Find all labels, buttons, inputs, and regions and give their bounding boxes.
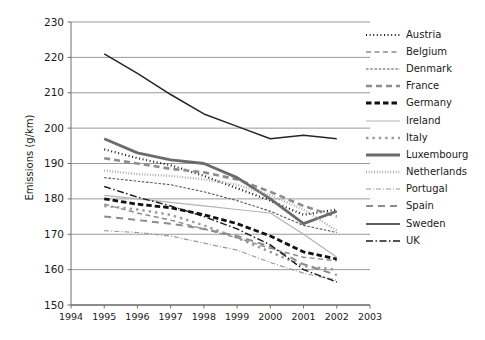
legend-item-italy[interactable]: Italy bbox=[366, 129, 484, 146]
chart-legend: AustriaBelgiumDenmarkFranceGermanyIrelan… bbox=[366, 26, 484, 249]
svg-text:1996: 1996 bbox=[125, 311, 149, 322]
legend-label: Belgium bbox=[406, 46, 447, 58]
legend-label: Italy bbox=[406, 132, 428, 144]
legend-label: Austria bbox=[406, 29, 441, 41]
legend-swatch-austria bbox=[366, 29, 400, 41]
svg-text:2000: 2000 bbox=[258, 311, 282, 322]
legend-swatch-sweden bbox=[366, 218, 400, 230]
svg-text:1998: 1998 bbox=[192, 311, 216, 322]
legend-item-portugal[interactable]: Portugal bbox=[366, 181, 484, 198]
svg-text:160: 160 bbox=[44, 263, 64, 275]
legend-label: UK bbox=[406, 235, 420, 247]
legend-item-sweden[interactable]: Sweden bbox=[366, 215, 484, 232]
legend-item-luxembourg[interactable]: Luxembourg bbox=[366, 146, 484, 163]
legend-item-uk[interactable]: UK bbox=[366, 232, 484, 249]
legend-swatch-portugal bbox=[366, 183, 400, 195]
legend-label: Germany bbox=[406, 97, 452, 109]
svg-text:2001: 2001 bbox=[291, 311, 315, 322]
legend-item-germany[interactable]: Germany bbox=[366, 95, 484, 112]
y-tick-marks bbox=[68, 22, 72, 305]
series-lines bbox=[104, 54, 337, 282]
svg-text:200: 200 bbox=[44, 122, 64, 134]
legend-swatch-italy bbox=[366, 132, 400, 144]
legend-label: Netherlands bbox=[406, 166, 467, 178]
y-tick-labels: 230220210200190180170160150 bbox=[44, 16, 64, 311]
legend-label: Sweden bbox=[406, 218, 446, 230]
svg-text:210: 210 bbox=[44, 86, 64, 98]
legend-item-austria[interactable]: Austria bbox=[366, 26, 484, 43]
legend-swatch-denmark bbox=[366, 63, 400, 75]
svg-text:180: 180 bbox=[44, 192, 64, 204]
legend-item-france[interactable]: France bbox=[366, 78, 484, 95]
legend-item-netherlands[interactable]: Netherlands bbox=[366, 164, 484, 181]
legend-label: Spain bbox=[406, 200, 434, 212]
svg-text:1997: 1997 bbox=[159, 311, 183, 322]
svg-text:150: 150 bbox=[44, 299, 64, 311]
x-tick-labels: 1994199519961997199819992000200120022003 bbox=[59, 311, 382, 322]
series-line-spain bbox=[104, 217, 337, 275]
svg-text:2003: 2003 bbox=[358, 311, 382, 322]
gridlines bbox=[71, 22, 370, 305]
legend-label: Ireland bbox=[406, 115, 441, 127]
legend-item-spain[interactable]: Spain bbox=[366, 198, 484, 215]
legend-label: Portugal bbox=[406, 183, 447, 195]
legend-swatch-netherlands bbox=[366, 166, 400, 178]
chart-container: Emissions (g/km) 23022021020019018017016… bbox=[0, 0, 485, 340]
legend-item-belgium[interactable]: Belgium bbox=[366, 43, 484, 60]
legend-swatch-spain bbox=[366, 200, 400, 212]
svg-text:2002: 2002 bbox=[325, 311, 349, 322]
svg-text:170: 170 bbox=[44, 228, 64, 240]
legend-swatch-germany bbox=[366, 97, 400, 109]
svg-text:220: 220 bbox=[44, 51, 64, 63]
legend-label: France bbox=[406, 80, 439, 92]
legend-item-ireland[interactable]: Ireland bbox=[366, 112, 484, 129]
series-line-italy bbox=[104, 206, 337, 270]
legend-swatch-belgium bbox=[366, 46, 400, 58]
series-line-sweden bbox=[104, 54, 337, 139]
x-tick-marks bbox=[71, 305, 370, 309]
series-line-portugal bbox=[104, 231, 337, 281]
legend-item-denmark[interactable]: Denmark bbox=[366, 60, 484, 77]
legend-label: Denmark bbox=[406, 63, 452, 75]
svg-text:190: 190 bbox=[44, 157, 64, 169]
legend-swatch-ireland bbox=[366, 115, 400, 127]
svg-text:1994: 1994 bbox=[59, 311, 83, 322]
svg-text:1995: 1995 bbox=[92, 311, 116, 322]
svg-text:230: 230 bbox=[44, 16, 64, 28]
legend-label: Luxembourg bbox=[406, 149, 468, 161]
legend-swatch-france bbox=[366, 80, 400, 92]
legend-swatch-uk bbox=[366, 235, 400, 247]
svg-text:1999: 1999 bbox=[225, 311, 249, 322]
legend-swatch-luxembourg bbox=[366, 149, 400, 161]
